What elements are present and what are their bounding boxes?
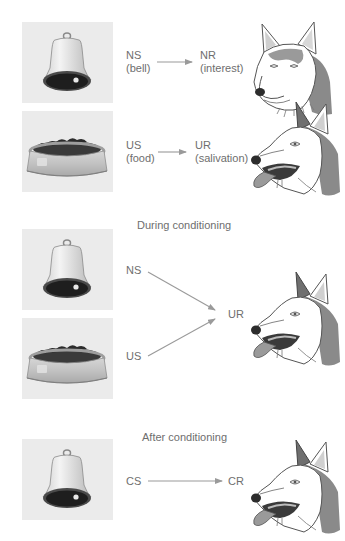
arrow-cs-to-cr [0, 0, 345, 541]
dog-head-salivating-icon [300, 486, 301, 487]
cr-label: CR [228, 475, 244, 488]
